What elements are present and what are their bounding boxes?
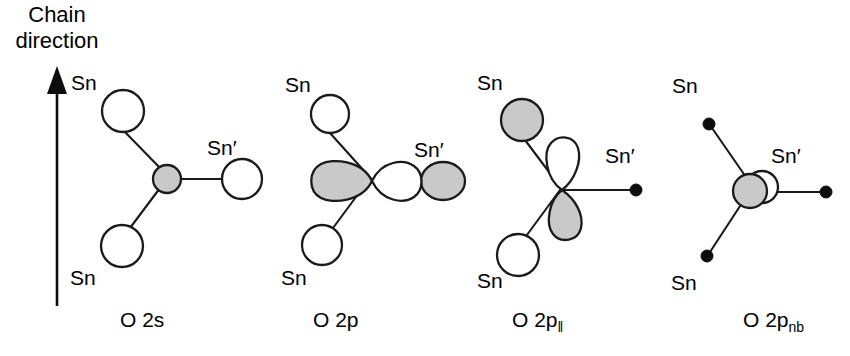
orbital-diagram-figure: Chain direction Sn Sn Sn′ O 2s xyxy=(0,0,850,356)
sn-lower-label: Sn xyxy=(70,266,96,289)
oxygen-2p-lobe-right xyxy=(372,162,422,201)
sn-lower-atom xyxy=(497,234,539,276)
sn-lower-label: Sn xyxy=(671,271,697,294)
panel-o2p-nb: Sn Sn Sn′ O 2pnb xyxy=(671,74,832,335)
panel-caption-o2s: O 2s xyxy=(120,308,164,331)
sn-upper-label: Sn xyxy=(672,74,698,97)
bond-center-to-sn-lower xyxy=(710,200,744,252)
panel-o2p: Sn Sn Sn′ O 2p xyxy=(281,73,465,331)
snprime-label: Sn′ xyxy=(771,144,801,167)
snprime-atom xyxy=(421,162,465,200)
snprime-atom xyxy=(820,186,832,198)
sn-lower-label: Sn xyxy=(281,266,307,289)
oxygen-2p-lobe-left xyxy=(311,161,372,201)
sn-upper-atom xyxy=(311,95,349,133)
sn-lower-label: Sn xyxy=(477,269,503,292)
snprime-label: Sn′ xyxy=(605,144,635,167)
oxygen-2s-orbital xyxy=(153,165,181,193)
panel-o2s: Sn Sn Sn′ O 2s xyxy=(70,71,262,331)
chain-direction-axis: Chain direction xyxy=(15,2,98,306)
sn-upper-atom xyxy=(703,118,715,130)
oxygen-2p-nb-orbital-front xyxy=(733,174,767,208)
panel-caption-o2p-par: O 2p‖ xyxy=(512,308,563,335)
snprime-label: Sn′ xyxy=(207,136,237,159)
chain-direction-label-line1: Chain xyxy=(28,2,85,27)
sn-upper-label: Sn xyxy=(71,71,97,94)
panel-caption-o2p-nb: O 2pnb xyxy=(743,308,804,335)
sn-lower-atom xyxy=(302,225,342,265)
snprime-atom xyxy=(222,159,262,199)
panel-o2p-par: Sn Sn Sn′ O 2p‖ xyxy=(477,71,642,335)
sn-lower-atom xyxy=(701,250,713,262)
oxygen-2p-par-lobe-top xyxy=(546,137,579,190)
sn-upper-label: Sn xyxy=(285,73,311,96)
snprime-atom xyxy=(630,184,642,196)
snprime-label: Sn′ xyxy=(414,138,444,161)
sn-upper-atom xyxy=(102,90,144,132)
sn-lower-atom xyxy=(101,225,143,267)
chain-direction-label-line2: direction xyxy=(15,28,98,53)
bond-center-to-sn-upper xyxy=(712,128,748,180)
bond-center-to-sn-upper xyxy=(123,130,162,170)
chain-direction-arrow-head xyxy=(47,66,67,94)
bond-center-to-sn-lower xyxy=(130,188,160,228)
sn-upper-atom xyxy=(501,99,543,141)
sn-upper-label: Sn xyxy=(477,71,503,94)
oxygen-2p-par-lobe-bottom xyxy=(549,190,582,240)
panel-caption-o2p: O 2p xyxy=(313,308,359,331)
